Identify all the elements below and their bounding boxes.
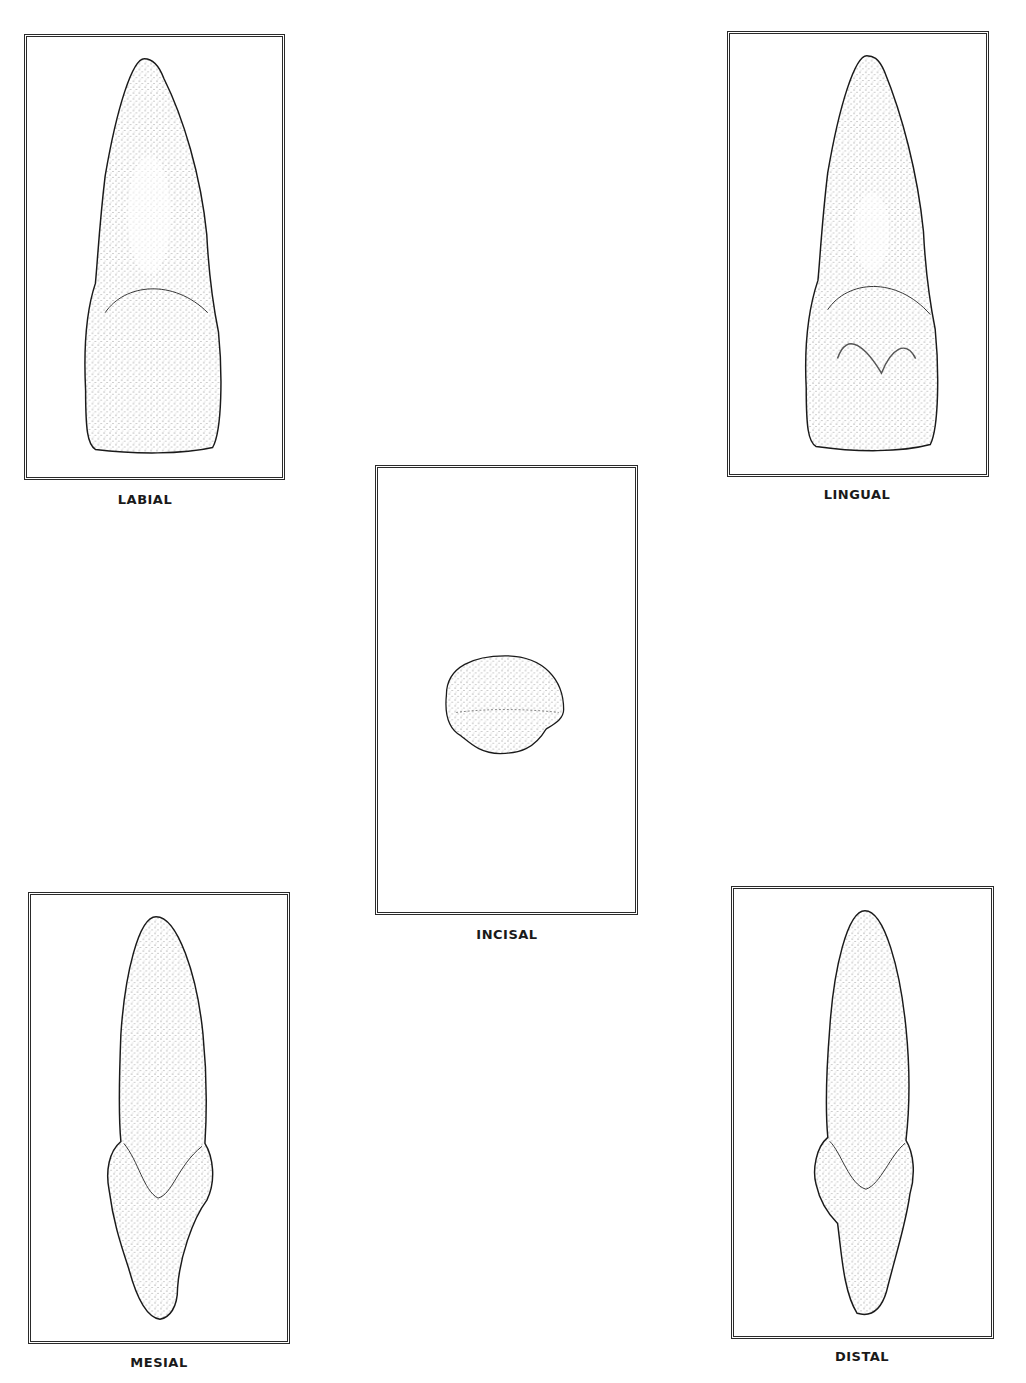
panel-incisal	[375, 465, 638, 915]
label-distal: DISTAL	[762, 1349, 962, 1364]
panel-mesial	[28, 892, 290, 1344]
label-lingual: LINGUAL	[757, 487, 957, 502]
panel-distal	[731, 886, 994, 1339]
panel-lingual	[727, 31, 989, 477]
label-mesial: MESIAL	[59, 1355, 259, 1370]
labial-tooth-illustration	[27, 37, 282, 477]
panel-labial	[24, 34, 285, 480]
mesial-tooth-illustration	[31, 895, 287, 1341]
label-incisal: INCISAL	[407, 927, 607, 942]
lingual-tooth-illustration	[730, 34, 986, 474]
distal-tooth-illustration	[734, 889, 991, 1336]
label-labial: LABIAL	[45, 492, 245, 507]
incisal-tooth-illustration	[378, 468, 635, 912]
